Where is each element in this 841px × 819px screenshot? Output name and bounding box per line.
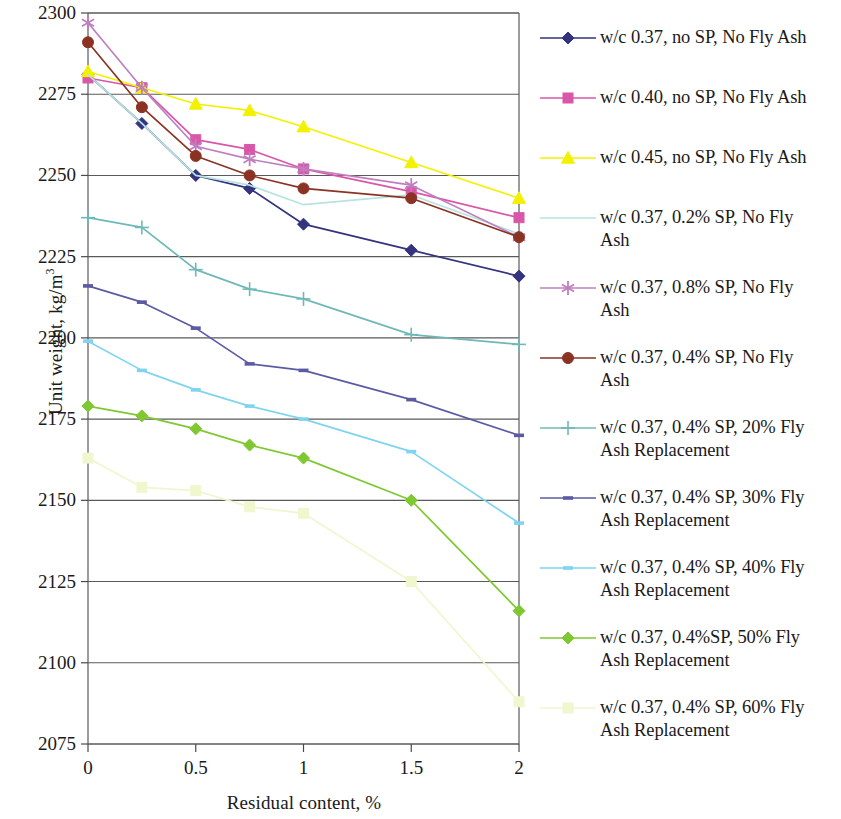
marker-plus xyxy=(243,282,257,296)
legend-label: w/c 0.37, 0.4% SP, 20% Fly Ash Replaceme… xyxy=(600,416,805,462)
chart-figure: Unit weight, kg/m3 Residual content, % 2… xyxy=(0,0,841,819)
marker-dash xyxy=(83,284,93,288)
marker-circle xyxy=(563,353,574,364)
marker-dash xyxy=(406,450,416,454)
legend-item[interactable]: w/c 0.37, 0.4% SP, 30% Fly Ash Replaceme… xyxy=(538,486,841,532)
marker-diamond xyxy=(562,32,574,44)
legend-item[interactable]: w/c 0.37, 0.4% SP, 40% Fly Ash Replaceme… xyxy=(538,556,841,602)
marker-square xyxy=(514,697,524,707)
legend-item[interactable]: w/c 0.37, 0.8% SP, No Fly Ash xyxy=(538,276,841,322)
series-line xyxy=(88,458,519,702)
marker-dash xyxy=(245,404,255,408)
legend-marker-icon xyxy=(538,628,600,646)
marker-square xyxy=(137,482,147,492)
legend-item[interactable]: w/c 0.40, no SP, No Fly Ash xyxy=(538,86,841,109)
series-line xyxy=(88,42,519,237)
legend-item[interactable]: w/c 0.37, 0.4% SP, 60% Fly Ash Replaceme… xyxy=(538,696,841,742)
marker-dash xyxy=(83,339,93,343)
marker-diamond xyxy=(190,423,202,435)
legend-label: w/c 0.45, no SP, No Fly Ash xyxy=(600,146,807,169)
marker-plus xyxy=(297,292,311,306)
marker-circle xyxy=(83,37,94,48)
legend-marker-icon xyxy=(538,28,600,46)
marker-dash xyxy=(191,388,201,392)
marker-circle xyxy=(298,183,309,194)
legend-label: w/c 0.37, 0.4% SP, 40% Fly Ash Replaceme… xyxy=(600,556,805,602)
legend-item[interactable]: w/c 0.37, no SP, No Fly Ash xyxy=(538,26,841,49)
marker-diamond xyxy=(136,410,148,422)
legend-label: w/c 0.37, 0.4%SP, 50% Fly Ash Replacemen… xyxy=(600,626,800,672)
data-series xyxy=(83,284,524,437)
series-line xyxy=(88,286,519,435)
legend-item[interactable]: w/c 0.45, no SP, No Fly Ash xyxy=(538,146,841,169)
marker-square xyxy=(514,213,524,223)
marker-square xyxy=(406,577,416,587)
marker-plus xyxy=(561,421,575,435)
marker-circle xyxy=(136,102,147,113)
marker-plus xyxy=(404,328,418,342)
legend-marker-icon xyxy=(538,88,600,106)
marker-diamond xyxy=(513,270,525,282)
marker-circle xyxy=(406,193,417,204)
marker-dash xyxy=(245,362,255,366)
marker-dash xyxy=(191,326,201,330)
plot-area xyxy=(0,0,560,800)
series-line xyxy=(88,218,519,345)
legend-marker-icon xyxy=(538,418,600,436)
marker-diamond xyxy=(298,218,310,230)
legend-item[interactable]: w/c 0.37, 0.4% SP, No Fly Ash xyxy=(538,346,841,392)
data-series xyxy=(83,339,524,525)
legend-marker-icon xyxy=(538,148,600,166)
legend-marker-icon xyxy=(538,208,600,226)
legend-item[interactable]: w/c 0.37, 0.4% SP, 20% Fly Ash Replaceme… xyxy=(538,416,841,462)
marker-square xyxy=(191,486,201,496)
marker-diamond xyxy=(82,400,94,412)
legend-label: w/c 0.37, 0.8% SP, No Fly Ash xyxy=(600,276,793,322)
legend-item[interactable]: w/c 0.37, 0.2% SP, No Fly Ash xyxy=(538,206,841,252)
legend-label: w/c 0.37, 0.4% SP, 60% Fly Ash Replaceme… xyxy=(600,696,805,742)
data-series xyxy=(81,211,526,352)
marker-circle xyxy=(190,150,201,161)
marker-dash xyxy=(299,417,309,421)
marker-dash xyxy=(563,496,573,500)
marker-dash xyxy=(137,369,147,373)
marker-square xyxy=(245,502,255,512)
legend-label: w/c 0.40, no SP, No Fly Ash xyxy=(600,86,807,109)
legend-marker-icon xyxy=(538,348,600,366)
marker-square xyxy=(563,93,573,103)
marker-diamond xyxy=(405,244,417,256)
marker-square xyxy=(299,508,309,518)
marker-diamond xyxy=(562,632,574,644)
marker-dash xyxy=(299,369,309,373)
marker-dash xyxy=(137,300,147,304)
marker-plus xyxy=(81,211,95,225)
legend-item[interactable]: w/c 0.37, 0.4%SP, 50% Fly Ash Replacemen… xyxy=(538,626,841,672)
legend-label: w/c 0.37, 0.4% SP, 30% Fly Ash Replaceme… xyxy=(600,486,805,532)
legend-label: w/c 0.37, no SP, No Fly Ash xyxy=(600,26,807,49)
legend-label: w/c 0.37, 0.4% SP, No Fly Ash xyxy=(600,346,793,392)
marker-dash xyxy=(514,434,524,438)
legend-marker-icon xyxy=(538,488,600,506)
chart-legend: w/c 0.37, no SP, No Fly Ashw/c 0.40, no … xyxy=(538,0,841,800)
series-line xyxy=(88,341,519,523)
marker-square xyxy=(563,703,573,713)
marker-dash xyxy=(563,566,573,570)
legend-marker-icon xyxy=(538,698,600,716)
legend-marker-icon xyxy=(538,558,600,576)
marker-diamond xyxy=(244,439,256,451)
marker-dash xyxy=(514,521,524,525)
marker-circle xyxy=(514,232,525,243)
legend-marker-icon xyxy=(538,278,600,296)
legend-label: w/c 0.37, 0.2% SP, No Fly Ash xyxy=(600,206,793,252)
marker-plus xyxy=(512,337,526,351)
marker-diamond xyxy=(298,452,310,464)
data-series xyxy=(83,453,524,707)
marker-dash xyxy=(406,398,416,402)
marker-circle xyxy=(244,170,255,181)
marker-square xyxy=(83,453,93,463)
